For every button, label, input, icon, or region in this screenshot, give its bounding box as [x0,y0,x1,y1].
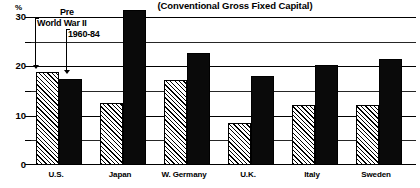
bar-japan-postwar [123,10,146,165]
bar-italy-postwar [315,65,338,165]
x-label-italy: Italy [282,170,342,179]
y-tick-mark-5 [25,140,31,141]
gridline-20 [31,66,416,67]
y-tick-label-20: 20 [8,60,26,71]
legend-label-prewar-line2: World War II [37,18,87,28]
legend-label-postwar: 1960-84 [68,29,100,39]
plot-area [31,17,416,165]
y-tick-mark-25 [25,42,31,43]
y-tick-label-0: 0 [8,159,26,170]
y-tick-mark-20 [25,66,31,67]
y-tick-label-30: 30 [8,11,26,22]
x-label-sweden: Sweden [346,170,406,179]
gridline-30 [31,17,416,18]
legend-label-prewar-line1: Pre [60,7,74,17]
bar-wgermany-postwar [187,53,210,165]
bar-sweden-prewar [356,105,379,165]
y-tick-mark-0 [25,164,31,165]
leader-arrow-postwar [64,70,70,74]
x-label-us: U.S. [26,170,86,179]
bar-japan-prewar [100,103,123,165]
leader-line-postwar-vertical [66,29,67,71]
leader-line-prewar-vertical [35,18,36,66]
y-tick-mark-10 [25,116,31,117]
x-label-japan: Japan [90,170,150,179]
bar-sweden-postwar [379,59,402,165]
bar-uk-prewar [228,123,251,165]
bar-wgermany-prewar [164,80,187,165]
bar-us-postwar [59,79,82,165]
y-tick-mark-15 [25,91,31,92]
x-label-wgermany: W. Germany [154,170,214,179]
chart-title: (Conventional Gross Fixed Capital) [130,0,340,11]
gridline-15 [31,91,416,92]
x-label-uk: U.K. [218,170,278,179]
y-tick-label-10: 10 [8,110,26,121]
y-tick-mark-30 [25,17,31,18]
bar-uk-postwar [251,76,274,165]
bar-italy-prewar [292,105,315,165]
bar-us-prewar [36,72,59,165]
bar-chart: (Conventional Gross Fixed Capital) % 30 … [0,0,420,188]
leader-arrow-prewar [33,65,39,69]
gridline-25 [31,42,416,43]
